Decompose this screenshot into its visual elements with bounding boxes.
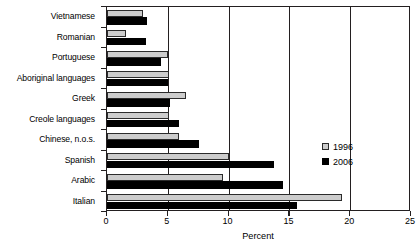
category-label: Chinese, n.o.s. (39, 129, 95, 150)
category-label: Arabic (71, 170, 95, 191)
plot-area (106, 6, 410, 211)
bar-1996 (107, 174, 223, 181)
bar-1996 (107, 51, 168, 58)
legend-label: 1996 (333, 142, 353, 152)
bar-2006 (107, 58, 161, 65)
bar-group (107, 192, 409, 213)
bar-group (107, 110, 409, 131)
category-label: Aboriginal languages (17, 68, 95, 89)
bar-2006 (107, 38, 146, 45)
bar-1996 (107, 92, 186, 99)
bar-chart: VietnameseRomanianPortugueseAboriginal l… (0, 0, 419, 248)
bar-1996 (107, 194, 342, 201)
category-label: Greek (72, 88, 95, 109)
bar-1996 (107, 133, 179, 140)
bar-2006 (107, 140, 199, 147)
legend: 19962006 (322, 140, 384, 170)
bar-group (107, 28, 409, 49)
bar-2006 (107, 17, 147, 24)
legend-label: 2006 (333, 157, 353, 167)
x-axis-title: Percent (106, 231, 410, 241)
category-label: Italian (73, 191, 95, 212)
legend-item: 1996 (322, 140, 384, 153)
bars-layer (107, 7, 409, 210)
category-axis: VietnameseRomanianPortugueseAboriginal l… (0, 6, 101, 211)
category-label: Spanish (65, 150, 95, 171)
bar-group (107, 89, 409, 110)
bar-2006 (107, 79, 168, 86)
bar-2006 (107, 181, 283, 188)
x-axis-tick-labels: 0510152025 (106, 216, 410, 230)
legend-swatch-icon (322, 158, 329, 165)
bar-1996 (107, 10, 143, 17)
legend-item: 2006 (322, 155, 384, 168)
x-axis-tick-label: 0 (103, 216, 108, 226)
x-axis-tick-label: 25 (405, 216, 415, 226)
bar-1996 (107, 30, 126, 37)
category-label: Portuguese (52, 47, 95, 68)
x-axis-tick-label: 10 (223, 216, 233, 226)
bar-2006 (107, 202, 297, 209)
bar-group (107, 7, 409, 28)
bar-2006 (107, 99, 170, 106)
x-axis-tick-label: 20 (344, 216, 354, 226)
bar-group (107, 69, 409, 90)
bar-group (107, 171, 409, 192)
bar-1996 (107, 112, 169, 119)
x-axis-tick-label: 15 (283, 216, 293, 226)
bar-1996 (107, 71, 169, 78)
bar-1996 (107, 153, 229, 160)
category-label: Romanian (57, 27, 95, 48)
category-label: Creole languages (29, 109, 95, 130)
bar-group (107, 48, 409, 69)
bar-2006 (107, 120, 179, 127)
bar-2006 (107, 161, 274, 168)
legend-swatch-icon (322, 143, 329, 150)
category-label: Vietnamese (51, 6, 95, 27)
x-axis-tick-label: 5 (164, 216, 169, 226)
